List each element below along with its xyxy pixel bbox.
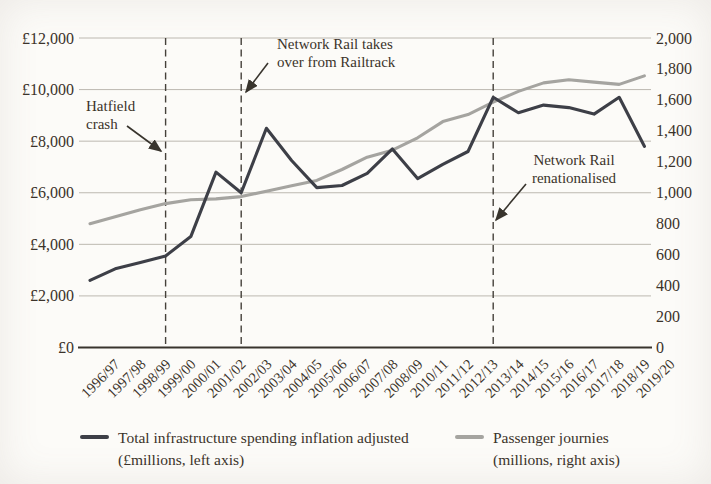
right-axis-label: 1,800 <box>656 60 692 77</box>
right-axis-label: 2,000 <box>656 30 692 47</box>
right-axis-label: 600 <box>656 246 680 263</box>
annotation-text-line: Network Rail takes <box>277 36 395 54</box>
right-axis-label: 0 <box>656 339 664 356</box>
annotation-text-line: Hatfield <box>86 98 135 116</box>
left-axis-label: £0 <box>8 339 74 356</box>
right-axis-label: 1,600 <box>656 91 692 108</box>
annotation-hatfield-crash: Hatfield crash <box>86 98 135 133</box>
legend-sublabel-spending: (£millions, left axis) <box>118 449 409 471</box>
left-axis-label: £6,000 <box>8 184 74 201</box>
left-axis-label: £2,000 <box>8 287 74 304</box>
right-axis-label: 1,200 <box>656 153 692 170</box>
legend-label-passengers: Passenger journies <box>493 427 620 449</box>
spending-line-swatch <box>80 435 109 439</box>
right-axis-label: 1,400 <box>656 122 692 139</box>
legend-sublabel-passengers: (millions, right axis) <box>493 449 620 471</box>
right-axis-label: 800 <box>656 215 680 232</box>
right-axis-label: 1,000 <box>656 184 692 201</box>
right-axis-label: 400 <box>656 277 680 294</box>
annotation-text-line: renationalised <box>518 170 630 188</box>
annotation-network-rail-takeover: Network Rail takes over from Railtrack <box>277 36 395 71</box>
left-axis-label: £8,000 <box>8 133 74 150</box>
legend-label-spending: Total infrastructure spending inflation … <box>118 427 409 449</box>
left-axis-label: £4,000 <box>8 236 74 253</box>
annotation-text-line: crash <box>86 116 135 134</box>
annotation-text-line: Network Rail <box>518 152 630 170</box>
plot-area <box>0 0 711 484</box>
passengers-line-swatch <box>455 435 484 439</box>
annotation-text-line: over from Railtrack <box>277 54 395 72</box>
right-axis-label: 200 <box>656 308 680 325</box>
left-axis-label: £12,000 <box>8 30 74 47</box>
legend-item-spending: Total infrastructure spending inflation … <box>80 427 409 471</box>
annotation-network-rail-renationalised: Network Rail renationalised <box>518 152 630 187</box>
left-axis-label: £10,000 <box>8 81 74 98</box>
legend-item-passengers: Passenger journies (millions, right axis… <box>455 427 620 471</box>
scanned-chart-page: £12,000£10,000£8,000£6,000£4,000£2,000£0… <box>0 0 711 484</box>
